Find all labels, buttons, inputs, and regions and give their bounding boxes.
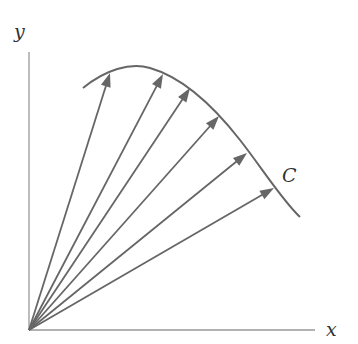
x-axis-label: x	[326, 318, 337, 340]
vector-field-diagram: y x C	[0, 0, 358, 344]
vector-arrow	[29, 84, 106, 330]
curve-label: C	[282, 164, 297, 186]
y-axis-label: y	[13, 20, 25, 42]
position-vectors	[29, 73, 274, 330]
arrowhead-icon	[178, 88, 190, 102]
vector-arrow	[29, 98, 183, 330]
vector-arrow	[29, 161, 238, 330]
arrowhead-icon	[152, 74, 163, 89]
arrowhead-icon	[259, 188, 274, 199]
